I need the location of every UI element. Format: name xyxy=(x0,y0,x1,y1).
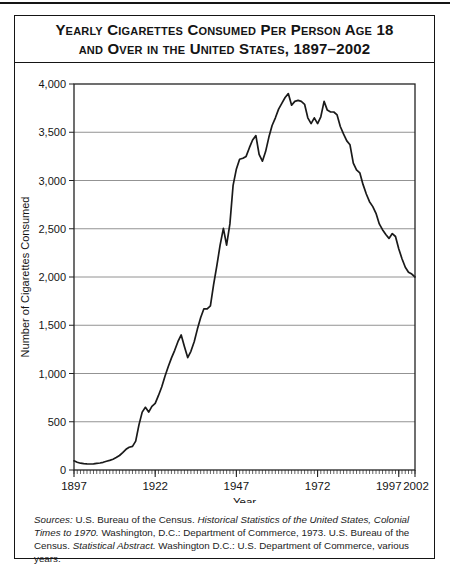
x-tick-label: 1922 xyxy=(142,480,168,492)
chart-title-line2: and Over in the United States, 1897–2002 xyxy=(15,39,434,59)
y-tick-label: 1,500 xyxy=(38,319,66,331)
x-tick-label: 2002 xyxy=(403,480,429,492)
sources-segment: Sources: xyxy=(34,514,73,525)
cigarette-consumption-line-chart: 05001,0001,5002,0002,5003,0003,5004,0001… xyxy=(15,63,432,503)
x-tick-label: 1997 xyxy=(376,480,402,492)
sources-segment: Statistical Abstract. xyxy=(73,540,156,551)
chart-title: Yearly Cigarettes Consumed Per Person Ag… xyxy=(15,16,434,63)
y-axis-title: Number of Cigarettes Consumed xyxy=(19,197,31,358)
x-tick-label: 1972 xyxy=(305,480,331,492)
y-tick-label: 4,000 xyxy=(38,78,66,90)
x-tick-label: 1897 xyxy=(61,480,87,492)
y-tick-label: 3,000 xyxy=(38,175,66,187)
page-top-rule xyxy=(0,2,450,4)
figure-box: Yearly Cigarettes Consumed Per Person Ag… xyxy=(14,15,435,559)
x-axis-title: Year xyxy=(233,496,256,503)
y-tick-label: 3,500 xyxy=(38,126,66,138)
sources-segment: U.S. Bureau of the Census. xyxy=(73,514,198,525)
sources-note: Sources: U.S. Bureau of the Census. Hist… xyxy=(34,513,423,566)
y-tick-label: 500 xyxy=(48,416,66,428)
y-tick-label: 2,500 xyxy=(38,223,66,235)
consumption-line xyxy=(74,94,415,464)
chart-title-line1: Yearly Cigarettes Consumed Per Person Ag… xyxy=(15,20,434,40)
y-tick-label: 0 xyxy=(60,464,66,476)
y-tick-label: 2,000 xyxy=(38,271,66,283)
y-tick-label: 1,000 xyxy=(38,368,66,380)
chart-area: 05001,0001,5002,0002,5003,0003,5004,0001… xyxy=(15,63,434,503)
x-tick-label: 1947 xyxy=(224,480,250,492)
